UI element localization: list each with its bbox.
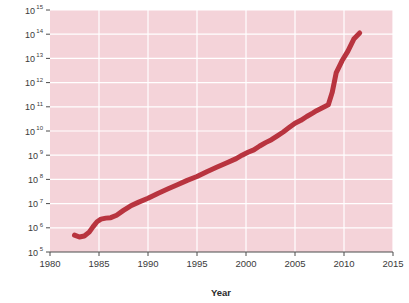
svg-text:12: 12 [36,77,43,83]
x-tick-label: 2015 [382,258,403,269]
x-axis-title: Year [211,287,231,298]
x-tick-label: 1995 [186,258,207,269]
svg-text:10: 10 [25,30,35,40]
svg-text:14: 14 [36,28,43,34]
svg-text:10: 10 [25,54,35,64]
chart-figure: 19801985199019952000200520102015 1051061… [0,0,409,303]
x-tick-label: 1990 [137,258,158,269]
svg-text:10: 10 [28,199,38,209]
svg-text:10: 10 [28,151,38,161]
svg-text:10: 10 [25,78,35,88]
svg-text:10: 10 [28,248,38,258]
svg-text:11: 11 [37,101,44,107]
x-tick-label: 2010 [333,258,354,269]
svg-text:13: 13 [36,52,43,58]
svg-text:15: 15 [36,4,43,10]
x-tick-label: 1980 [39,258,60,269]
svg-text:10: 10 [25,102,35,112]
svg-text:10: 10 [28,175,38,185]
log-line-chart: 19801985199019952000200520102015 1051061… [0,0,409,303]
svg-text:10: 10 [36,125,43,131]
svg-text:10: 10 [28,223,38,233]
svg-text:10: 10 [25,6,35,16]
x-tick-label: 2000 [235,258,256,269]
svg-text:10: 10 [25,127,35,137]
x-tick-label: 2005 [284,258,305,269]
x-tick-label: 1985 [88,258,109,269]
